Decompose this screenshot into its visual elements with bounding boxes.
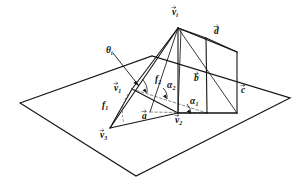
label-sub: 3 xyxy=(104,135,107,141)
label-vertex-v3: v3 xyxy=(100,131,107,141)
label-sub: i xyxy=(111,50,113,56)
label-vector-a: a xyxy=(142,112,147,122)
label-vector-c: c xyxy=(241,86,245,96)
label-sub: 1 xyxy=(105,105,108,111)
label-text: d xyxy=(214,26,219,36)
label-text: c xyxy=(241,85,245,95)
prism-edge-apex-cbottom xyxy=(178,28,237,113)
label-vertex-v1: v1 xyxy=(114,84,121,94)
label-sub: 2 xyxy=(172,85,175,91)
base-edge-v1-v2 xyxy=(132,89,178,113)
label-face-f2: f2 xyxy=(155,75,161,85)
base-edge-v3-v1 xyxy=(110,89,132,128)
label-sub: 2 xyxy=(158,79,161,85)
geometry-figure: vi d θi v1 f2 α2 xyxy=(0,0,301,183)
label-face-f1: f1 xyxy=(102,101,108,111)
label-vertex-v2: v2 xyxy=(175,116,182,126)
label-angle-alpha2: α2 xyxy=(167,81,175,91)
label-angle-alpha1: α1 xyxy=(190,97,198,107)
label-text: a xyxy=(142,111,147,121)
label-angle-theta: θi xyxy=(106,46,113,56)
figure-canvas xyxy=(0,0,301,183)
label-sub: 1 xyxy=(195,101,198,107)
label-vector-b: b xyxy=(194,74,199,84)
label-sub: 1 xyxy=(118,88,121,94)
label-sub: 2 xyxy=(179,120,182,126)
label-vector-d: d xyxy=(214,27,219,37)
label-vertex-top: vi xyxy=(172,8,178,18)
label-text: b xyxy=(194,73,199,83)
label-sub: i xyxy=(176,12,178,18)
prism-edge-apex-dtop xyxy=(178,28,237,52)
leader-line-theta xyxy=(113,53,139,86)
angle-arrow-alpha2 xyxy=(163,94,167,99)
prism-edge-back-vertical xyxy=(206,38,207,113)
